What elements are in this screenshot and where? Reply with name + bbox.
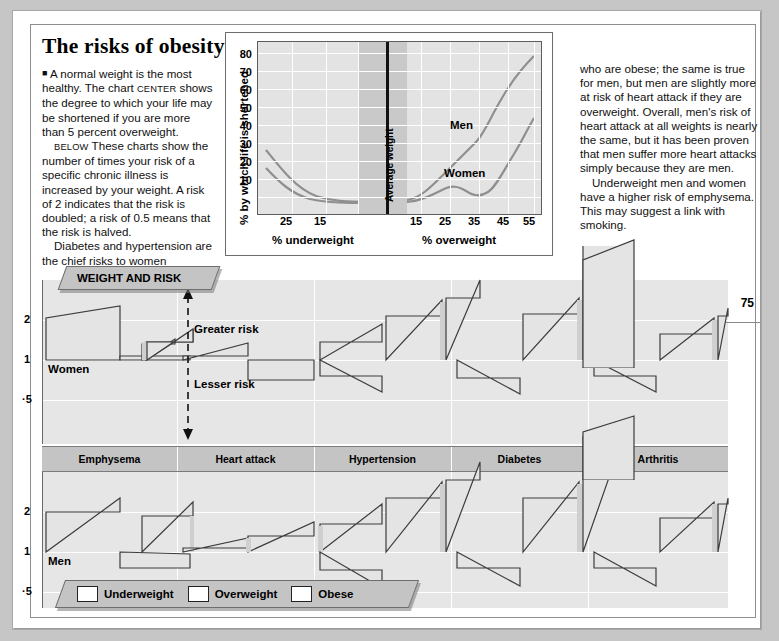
line-series-label-women: Women: [444, 167, 485, 179]
page-title: The risks of obesity: [42, 34, 225, 59]
y-tick-10: 10: [226, 174, 252, 186]
average-weight-band-left: [358, 42, 386, 214]
y-tick-60: 60: [226, 84, 252, 96]
underweight-swatch-icon: [77, 586, 98, 602]
x-tick-over-25: 25: [439, 215, 451, 227]
x-tick-over-15: 15: [410, 215, 422, 227]
line-series-label-men: Men: [450, 119, 473, 131]
women-y-tick-half: ·5: [22, 393, 32, 405]
x-tick-over-45: 45: [497, 215, 509, 227]
x-axis-label-overweight: % overweight: [422, 234, 496, 246]
women-y-tick-1: 1: [24, 353, 30, 365]
legend-label-overweight: Overweight: [215, 588, 278, 600]
y-tick-70: 70: [226, 66, 252, 78]
intro-paragraph-1: ■ A normal weight is the most healthy. T…: [42, 66, 214, 139]
continuation-text-column: who are obese; the same is true for men,…: [580, 62, 758, 232]
weight-and-risk-banner: WEIGHT AND RISK: [58, 266, 221, 290]
page-number: 75: [741, 296, 754, 310]
x-tick-over-35: 35: [468, 215, 480, 227]
weight-class-legend: Underweight Overweight Obese: [55, 580, 419, 608]
average-weight-annotation: Average weight: [384, 128, 395, 202]
risk-direction-indicator: [178, 288, 198, 440]
greater-risk-label: Greater risk: [194, 323, 259, 335]
intro-smallcaps-center: CENTER: [137, 84, 176, 94]
magazine-page: The risks of obesity ■ A normal weight i…: [12, 10, 760, 628]
bullet-square-icon: ■: [42, 68, 47, 78]
intro-smallcaps-below: BELOW: [54, 142, 89, 152]
continuation-paragraph-2: Underweight men and women have a higher …: [580, 176, 758, 233]
x-tick-under-15: 15: [314, 215, 326, 227]
intro-paragraph-2: BELOW These charts show the number of ti…: [42, 139, 214, 239]
y-tick-20: 20: [226, 156, 252, 168]
line-chart-plot-area: Average weight Men Women: [257, 41, 542, 215]
y-tick-80: 80: [226, 48, 252, 60]
life-shortening-chart: % by which life is shortened 80 70 60 50…: [225, 32, 553, 256]
men-y-tick-2: 2: [24, 505, 30, 517]
page-canvas: The risks of obesity ■ A normal weight i…: [0, 0, 779, 641]
x-tick-under-25: 25: [280, 215, 292, 227]
men-y-tick-half: ·5: [22, 585, 32, 597]
men-y-tick-1: 1: [24, 545, 30, 557]
continuation-paragraph-1: who are obese; the same is true for men,…: [580, 62, 758, 176]
y-tick-50: 50: [226, 102, 252, 114]
overweight-swatch-icon: [188, 586, 209, 602]
page-number-rule: [726, 322, 760, 323]
women-y-tick-2: 2: [24, 313, 30, 325]
y-tick-40: 40: [226, 120, 252, 132]
obese-swatch-icon: [291, 586, 312, 602]
risk-arrow-icon: [178, 288, 198, 440]
x-tick-over-55: 55: [523, 215, 535, 227]
x-axis-label-underweight: % underweight: [272, 234, 354, 246]
intro-p2: These charts show the number of times yo…: [42, 139, 210, 238]
weight-and-risk-panel: 2 1 ·5 2 1 ·5 Women Men: [42, 266, 758, 614]
legend-label-obese: Obese: [318, 588, 353, 600]
legend-label-underweight: Underweight: [104, 588, 174, 600]
lesser-risk-label: Lesser risk: [194, 378, 255, 390]
weight-and-risk-banner-label: WEIGHT AND RISK: [77, 272, 181, 284]
intro-text-column: ■ A normal weight is the most healthy. T…: [42, 66, 214, 268]
y-tick-30: 30: [226, 138, 252, 150]
